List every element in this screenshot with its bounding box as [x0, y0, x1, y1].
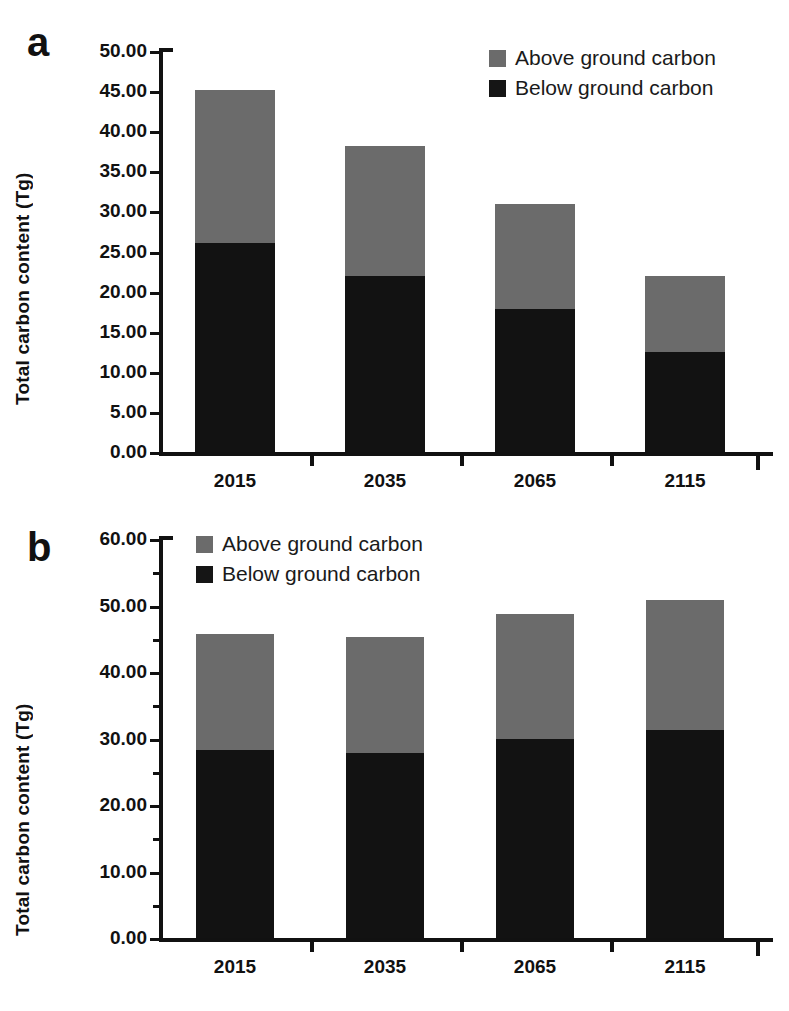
bar-2115 [645, 276, 725, 452]
y-tick-mark [150, 606, 160, 609]
bar-segment-above-ground-2015 [196, 634, 274, 750]
panel-b-legend: Above ground carbonBelow ground carbon [196, 532, 423, 592]
panel-b-plot-area: 0.0010.0020.0030.0040.0050.0060.00 20152… [160, 539, 760, 938]
y-tick-mark [150, 672, 160, 675]
bar-segment-below-ground-2065 [496, 739, 574, 939]
bar-2015 [196, 634, 274, 938]
x-tick-mark [610, 455, 614, 466]
y-tick-label: 40.00 [99, 120, 147, 142]
x-tick-label-2015: 2015 [214, 470, 256, 492]
bar-segment-above-ground-2115 [646, 600, 724, 730]
y-tick-label: 40.00 [99, 661, 147, 683]
y-tick-mark [150, 872, 160, 875]
legend-swatch-below-icon [489, 80, 506, 97]
y-tick-label: 60.00 [99, 528, 147, 550]
y-tick-mark [150, 539, 160, 542]
bar-2035 [346, 637, 424, 938]
y-tick-mark [150, 211, 160, 214]
panel-a-y-axis-label: Total carbon content (Tg) [12, 105, 34, 405]
bar-2035 [345, 146, 425, 452]
y-tick-mark [150, 412, 160, 415]
panel-b-x-axis-end-cap [756, 938, 760, 956]
legend-label: Below ground carbon [222, 562, 420, 586]
bar-2065 [495, 204, 575, 452]
y-minor-tick-mark [153, 838, 160, 841]
y-minor-tick-mark [153, 772, 160, 775]
panel-a-legend: Above ground carbonBelow ground carbon [489, 46, 716, 106]
legend-item-above: Above ground carbon [489, 46, 716, 70]
x-tick-label-2115: 2115 [664, 470, 705, 492]
panel-b-y-axis-top-cap [159, 536, 173, 540]
x-tick-mark [610, 941, 614, 952]
y-tick-label: 45.00 [99, 80, 147, 102]
y-tick-label: 10.00 [99, 360, 147, 382]
legend-label: Below ground carbon [515, 76, 713, 100]
y-tick-mark [150, 171, 160, 174]
bar-segment-below-ground-2065 [495, 309, 575, 452]
bar-segment-below-ground-2035 [345, 276, 425, 452]
bar-segment-below-ground-2015 [195, 243, 275, 452]
x-tick-label-2035: 2035 [364, 956, 406, 978]
y-tick-label: 20.00 [99, 794, 147, 816]
legend-swatch-above-icon [489, 50, 506, 67]
y-tick-mark [150, 938, 160, 941]
y-tick-label: 0.00 [110, 927, 147, 949]
y-tick-label: 50.00 [99, 40, 147, 62]
y-tick-mark [150, 452, 160, 455]
bar-segment-below-ground-2115 [645, 352, 725, 452]
y-tick-mark [150, 292, 160, 295]
x-tick-label-2065: 2065 [514, 470, 556, 492]
x-tick-mark [460, 455, 464, 466]
legend-swatch-above-icon [196, 536, 213, 553]
panel-b-y-axis-label: Total carbon content (Tg) [12, 616, 34, 936]
legend-label: Above ground carbon [222, 532, 423, 556]
panel-a-x-axis-line [159, 452, 773, 456]
bar-segment-above-ground-2065 [495, 204, 575, 309]
y-tick-mark [150, 252, 160, 255]
y-tick-label: 10.00 [99, 860, 147, 882]
bar-segment-below-ground-2035 [346, 753, 424, 938]
y-tick-label: 15.00 [99, 320, 147, 342]
bar-segment-below-ground-2015 [196, 750, 274, 938]
panel-a-plot-area: 0.005.0010.0015.0020.0025.0030.0035.0040… [160, 51, 760, 452]
bar-segment-above-ground-2035 [346, 637, 424, 753]
x-tick-label-2035: 2035 [364, 470, 406, 492]
y-tick-label: 25.00 [99, 240, 147, 262]
y-tick-label: 30.00 [99, 727, 147, 749]
stacked-bar-figure: a Total carbon content (Tg) 0.005.0010.0… [0, 0, 789, 1011]
y-tick-mark [150, 91, 160, 94]
x-tick-label-2015: 2015 [214, 956, 256, 978]
legend-label: Above ground carbon [515, 46, 716, 70]
bar-segment-above-ground-2065 [496, 614, 574, 738]
y-tick-mark [150, 131, 160, 134]
panel-a-y-axis-top-cap [159, 48, 173, 52]
y-tick-mark [150, 51, 160, 54]
x-tick-mark [310, 455, 314, 466]
bar-2115 [646, 600, 724, 938]
y-minor-tick-mark [153, 639, 160, 642]
y-tick-label: 30.00 [99, 200, 147, 222]
panel-a-letter: a [27, 22, 49, 62]
x-tick-mark [310, 941, 314, 952]
y-tick-mark [150, 332, 160, 335]
y-tick-label: 20.00 [99, 280, 147, 302]
y-minor-tick-mark [153, 905, 160, 908]
legend-item-above: Above ground carbon [196, 532, 423, 556]
y-minor-tick-mark [153, 572, 160, 575]
legend-swatch-below-icon [196, 566, 213, 583]
y-tick-mark [150, 372, 160, 375]
legend-item-below: Below ground carbon [489, 76, 716, 100]
bar-2065 [496, 614, 574, 938]
y-tick-label: 50.00 [99, 594, 147, 616]
y-minor-tick-mark [153, 705, 160, 708]
bar-segment-below-ground-2115 [646, 730, 724, 938]
y-tick-mark [150, 805, 160, 808]
panel-b-letter: b [27, 527, 51, 567]
y-tick-label: 0.00 [110, 441, 147, 463]
y-tick-label: 5.00 [110, 400, 147, 422]
panel-a-x-axis-end-cap [756, 452, 760, 470]
bar-segment-above-ground-2015 [195, 90, 275, 243]
y-tick-label: 35.00 [99, 160, 147, 182]
x-tick-label-2115: 2115 [664, 956, 705, 978]
x-tick-label-2065: 2065 [514, 956, 556, 978]
